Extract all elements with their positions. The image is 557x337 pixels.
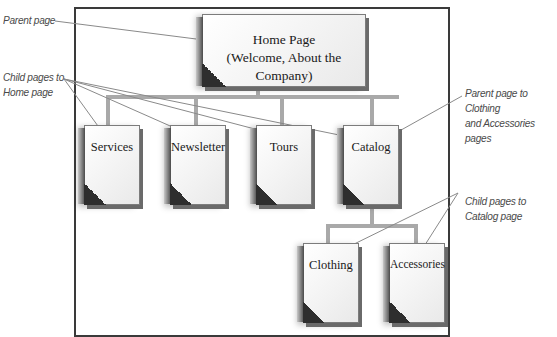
home-page-title: Home Page — [203, 31, 365, 49]
folded-corner-icon — [303, 301, 325, 323]
accessories-label: Accessories — [390, 258, 444, 272]
callout-parent-catalog: Parent page to Clothing and Accessories … — [465, 86, 546, 146]
callout-parent-catalog-line1: Parent page to Clothing — [465, 86, 546, 116]
callout-child-pages-home: Child pages to Home page — [3, 70, 64, 100]
node-home-page: Home Page (Welcome, About the Company) — [202, 14, 366, 87]
callout-child-pages-catalog: Child pages to Catalog page — [465, 194, 526, 224]
folded-corner-icon — [202, 63, 226, 87]
folded-corner-icon — [84, 183, 106, 205]
folded-corner-icon — [389, 301, 411, 323]
callout-child-home-line2: Home page — [3, 85, 64, 100]
callout-parent-page: Parent page — [3, 13, 55, 28]
node-clothing: Clothing — [303, 243, 359, 323]
node-accessories: Accessories — [389, 243, 445, 323]
home-page-subtitle: (Welcome, About the Company) — [203, 49, 365, 85]
tours-label: Tours — [257, 140, 311, 155]
callout-child-home-line1: Child pages to — [3, 70, 64, 85]
folded-corner-icon — [343, 183, 365, 205]
node-newsletter: Newsletter — [170, 125, 226, 205]
callout-parent-page-text: Parent page — [3, 14, 55, 26]
callout-child-catalog-line1: Child pages to — [465, 194, 526, 209]
callout-parent-catalog-line2: and Accessories pages — [465, 116, 546, 146]
home-page-label: Home Page (Welcome, About the Company) — [203, 31, 365, 86]
clothing-label: Clothing — [304, 258, 358, 273]
folded-corner-icon — [256, 183, 278, 205]
callout-child-catalog-line2: Catalog page — [465, 209, 526, 224]
node-services: Services — [84, 125, 140, 205]
node-tours: Tours — [256, 125, 312, 205]
node-catalog: Catalog — [343, 125, 399, 205]
newsletter-label: Newsletter — [171, 140, 225, 155]
folded-corner-icon — [170, 183, 192, 205]
catalog-label: Catalog — [344, 140, 398, 155]
services-label: Services — [85, 140, 139, 155]
